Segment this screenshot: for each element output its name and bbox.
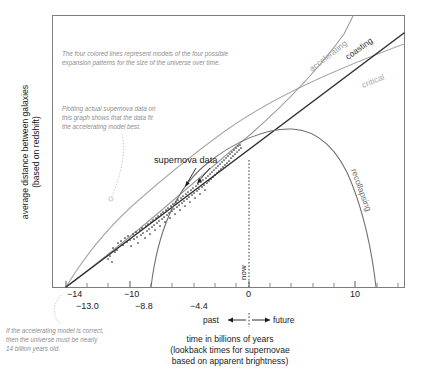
x-axis-label-line3: based on apparent brightness)	[172, 356, 289, 366]
past-label: past	[203, 315, 220, 325]
curve-label-recollapsing: recollapsing	[349, 167, 374, 213]
past-future-direction-indicator: past future	[203, 313, 295, 327]
x-axis-label-line1: time in billions of years	[187, 334, 274, 344]
curve-label-coasting: coasting	[343, 35, 374, 62]
age-note-line3: 14 billion years old.	[6, 345, 60, 353]
now-label: now	[239, 265, 248, 280]
x-axis-label-line2: (lookback times for supernovae	[170, 345, 290, 355]
future-arrowhead	[265, 318, 270, 323]
expansion-models-chart: now −14 −10 0 10 −13.0 −8.8	[0, 0, 427, 379]
models-note-line1: The four colored lines represent models …	[62, 50, 228, 58]
future-label: future	[273, 315, 295, 325]
y-axis-label-line1: average distance between galaxies	[20, 85, 30, 219]
curve-coasting	[66, 33, 404, 287]
age-note-line1: If the accelerating model is correct,	[6, 327, 104, 335]
xtick-label-minus8-8: −8.8	[135, 301, 153, 311]
xtick-label-ten: 10	[350, 289, 360, 299]
fit-note-line2: this graph shows that the data fit	[62, 114, 153, 122]
fit-note-line1: Plotting actual supernova data on	[62, 105, 156, 113]
age-note-line2: then the universe must be nearly	[6, 336, 98, 344]
xtick-label-minus13-0: −13.0	[76, 301, 99, 311]
curve-recollapsing	[151, 129, 376, 287]
models-note-line2: expansion patterns for the size of the u…	[62, 59, 220, 67]
xtick-label-zero: 0	[246, 289, 251, 299]
curve-label-critical: critical	[360, 72, 386, 90]
figure-root: now −14 −10 0 10 −13.0 −8.8	[0, 0, 427, 379]
age-note-leader-line	[54, 294, 62, 323]
fit-note-line3: the accelerating model best.	[62, 123, 141, 131]
fit-note-leader-endpoint	[109, 197, 113, 201]
past-arrowhead	[228, 318, 233, 323]
xtick-label-minus14: −14	[67, 289, 82, 299]
xtick-label-minus10: −10	[124, 289, 139, 299]
x-axis-ticks	[66, 281, 398, 287]
y-axis-label-line2: (based on redshift)	[31, 116, 41, 188]
supernova-data-label: supernova data	[154, 155, 218, 165]
xtick-label-minus4-4: −4.4	[190, 301, 208, 311]
fit-note-leader-line	[112, 134, 124, 196]
